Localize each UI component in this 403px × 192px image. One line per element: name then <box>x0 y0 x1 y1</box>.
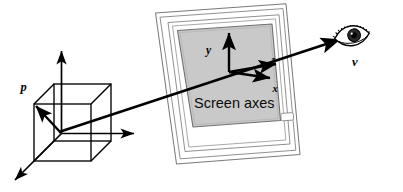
screen-axes-caption: Screen axes <box>194 95 275 111</box>
screen-axis-y-label: y <box>204 44 212 57</box>
monitor-icon <box>156 4 301 164</box>
screen-axes-diagram: p y z x Screen axes <box>0 0 403 192</box>
screen-axis-z-label: z <box>271 55 276 65</box>
view-vector-v-label: v <box>352 55 358 69</box>
point-p-label: p <box>20 80 27 94</box>
screen-axis-x-label: x <box>272 83 278 94</box>
monitor-power-button[interactable] <box>281 113 294 121</box>
